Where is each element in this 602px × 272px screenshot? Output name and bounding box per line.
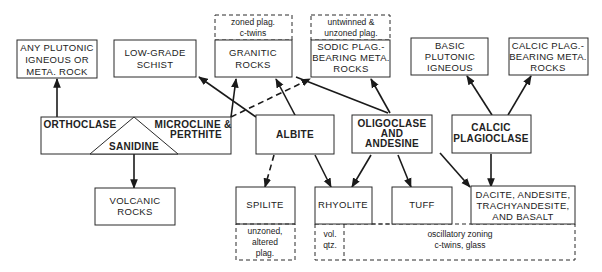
node-rhyolite-note-line-1: vol.: [323, 229, 336, 239]
node-basic-plutonic-line-3: IGNEOUS: [427, 62, 473, 73]
node-granitic-note-line-1: zoned plag.: [231, 17, 275, 27]
node-calcic-plag-line-2: PLAGIOCLASE: [453, 133, 529, 144]
node-spilite-note-line-2: altered: [252, 237, 278, 247]
node-calcic-plagioclase: CALCIC PLAGIOCLASE: [452, 115, 531, 153]
node-granitic-line-2: ROCKS: [235, 59, 270, 70]
node-basic-plutonic: BASIC PLUTONIC IGNEOUS: [411, 38, 488, 75]
node-basic-plutonic-line-2: PLUTONIC: [425, 51, 475, 62]
edge-calcic-to-calcic-meta: [508, 76, 531, 115]
node-low-grade-schist: LOW-GRADE SCHIST: [114, 40, 196, 77]
node-sodic-line-1: SODIC PLAG.-: [317, 41, 384, 52]
node-spilite-label: SPILITE: [246, 199, 283, 210]
node-dacite: DACITE, ANDESITE, TRACHYANDESITE, AND BA…: [471, 186, 575, 224]
node-volcanic-line-2: ROCKS: [117, 206, 152, 217]
node-any-plutonic-line-2: IGNEOUS OR: [25, 54, 89, 65]
node-basic-plutonic-line-1: BASIC: [435, 40, 465, 51]
node-volcanic-note: vol. qtz. oscillatory zoning c-twins, gl…: [315, 224, 575, 260]
node-any-plutonic: ANY PLUTONIC IGNEOUS OR META. ROCK: [17, 40, 97, 78]
node-microcline-line-2: PERTHITE: [170, 129, 222, 140]
edge-albite-to-granitic: [276, 79, 296, 117]
node-tuff: TUFF: [392, 187, 452, 224]
node-sodic: SODIC PLAG.- BEARING META. ROCKS: [311, 40, 390, 77]
node-volcanic: VOLCANIC ROCKS: [95, 188, 175, 225]
node-tuff-label: TUFF: [409, 199, 434, 210]
node-alkali-feldspar: ORTHOCLASE MICROCLINE & PERTHITE SANIDIN…: [41, 117, 231, 154]
node-calcic-meta-line-1: CALCIC PLAG.-: [512, 40, 585, 51]
node-dacite-line-1: DACITE, ANDESITE,: [476, 189, 571, 200]
node-orthoclase-label: ORTHOCLASE: [44, 119, 117, 130]
feldspar-provenance-diagram: ANY PLUTONIC IGNEOUS OR META. ROCK LOW-G…: [0, 0, 602, 272]
node-calcic-plag-line-1: CALCIC: [471, 122, 511, 133]
edge-albite-to-rhyolite: [315, 155, 331, 187]
edge-oligoclase-to-dacite: [440, 153, 470, 187]
node-sodic-line-3: ROCKS: [333, 63, 368, 74]
node-albite-label: ALBITE: [276, 129, 314, 140]
node-calcic-meta-line-3: ROCKS: [530, 62, 565, 73]
node-albite: ALBITE: [256, 115, 334, 154]
node-sodic-note-line-1: untwinned &: [328, 17, 375, 27]
edge-albite-to-low-grade-schist: [199, 77, 256, 117]
node-oligoclase: OLIGOCLASE AND ANDESINE: [352, 115, 432, 153]
node-rhyolite-note-line-2: qtz.: [323, 240, 337, 250]
node-granitic: GRANITIC ROCKS: [215, 40, 292, 77]
edge-albite-to-spilite: [265, 155, 274, 187]
node-granitic-note-line-2: c-twins: [240, 28, 266, 38]
node-calcic-meta: CALCIC PLAG.- BEARING META. ROCKS: [509, 38, 588, 75]
node-rhyolite: RHYOLITE: [315, 187, 372, 224]
node-dacite-line-3: AND BASALT: [492, 211, 553, 222]
node-sanidine-label: SANIDINE: [109, 141, 159, 152]
edge-microcline-to-sodic: [231, 79, 310, 117]
node-oligoclase-line-3: ANDESINE: [365, 138, 419, 149]
node-spilite-note-line-1: unzoned,: [248, 226, 283, 236]
edge-oligoclase-to-granitic: [296, 77, 388, 113]
node-spilite: SPILITE: [236, 187, 295, 224]
node-sodic-note: untwinned & unzoned plag.: [311, 15, 390, 40]
node-rhyolite-label: RHYOLITE: [318, 199, 368, 210]
node-granitic-line-1: GRANITIC: [229, 47, 277, 58]
node-volcanic-line-1: VOLCANIC: [110, 195, 161, 206]
edge-oligoclase-to-rhyolite: [352, 155, 371, 187]
edge-microcline-to-granitic: [231, 79, 236, 117]
node-volcanic-note-line-1: oscillatory zoning: [427, 229, 492, 239]
node-spilite-note: unzoned, altered plag.: [236, 224, 295, 260]
node-low-grade-schist-line-1: LOW-GRADE: [124, 47, 185, 58]
edge-oligoclase-to-tuff: [398, 155, 411, 187]
node-dacite-line-2: TRACHYANDESITE,: [476, 200, 569, 211]
node-granitic-note: zoned plag. c-twins: [215, 15, 292, 40]
node-sodic-line-2: BEARING META.: [312, 52, 390, 63]
node-any-plutonic-line-3: META. ROCK: [26, 66, 88, 77]
node-any-plutonic-line-1: ANY PLUTONIC: [20, 42, 93, 53]
node-spilite-note-line-3: plag.: [256, 248, 274, 258]
node-calcic-meta-line-2: BEARING META.: [509, 51, 587, 62]
node-sodic-note-line-2: unzoned plag.: [324, 28, 377, 38]
node-low-grade-schist-line-2: SCHIST: [137, 59, 174, 70]
node-volcanic-note-line-2: c-twins, glass: [434, 240, 485, 250]
edge-calcic-to-basic-plutonic: [467, 76, 492, 115]
